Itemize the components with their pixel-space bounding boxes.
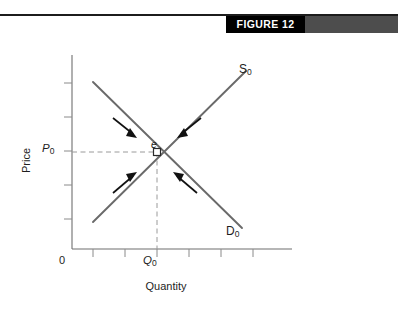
x-axis-title: Quantity [126, 281, 206, 292]
equilibrium-point-label: e [151, 139, 157, 150]
figure-page: FIGURE 12 [0, 0, 398, 313]
equilibrium-quantity-letter: Q [143, 254, 152, 266]
arrow-lower-right [173, 172, 197, 193]
figure-number-label: FIGURE 12 [226, 16, 305, 33]
equilibrium-price-label: P0 [42, 143, 54, 156]
supply-curve-letter: S [239, 62, 247, 76]
supply-demand-chart: Price Quantity 0 P0 Q0 S0 D0 e [0, 33, 398, 313]
equilibrium-quantity-subscript: 0 [152, 258, 157, 268]
demand-curve-label: D0 [226, 225, 239, 239]
y-axis-title: Price [21, 131, 32, 191]
demand-curve [93, 82, 242, 228]
supply-curve-subscript: 0 [247, 67, 252, 77]
equilibrium-price-letter: P [42, 142, 50, 154]
demand-curve-letter: D [226, 224, 235, 238]
equilibrium-quantity-label: Q0 [143, 255, 157, 268]
y-axis-ticks [64, 83, 72, 219]
demand-curve-subscript: 0 [235, 229, 240, 239]
arrow-upper-right [177, 118, 201, 138]
figure-number-badge: FIGURE 12 [226, 16, 305, 33]
x-axis-ticks [93, 249, 253, 257]
supply-curve [93, 71, 246, 222]
chart-canvas [0, 33, 398, 313]
origin-label: 0 [59, 255, 65, 266]
equilibrium-price-subscript: 0 [50, 146, 55, 156]
supply-curve-label: S0 [239, 63, 252, 77]
